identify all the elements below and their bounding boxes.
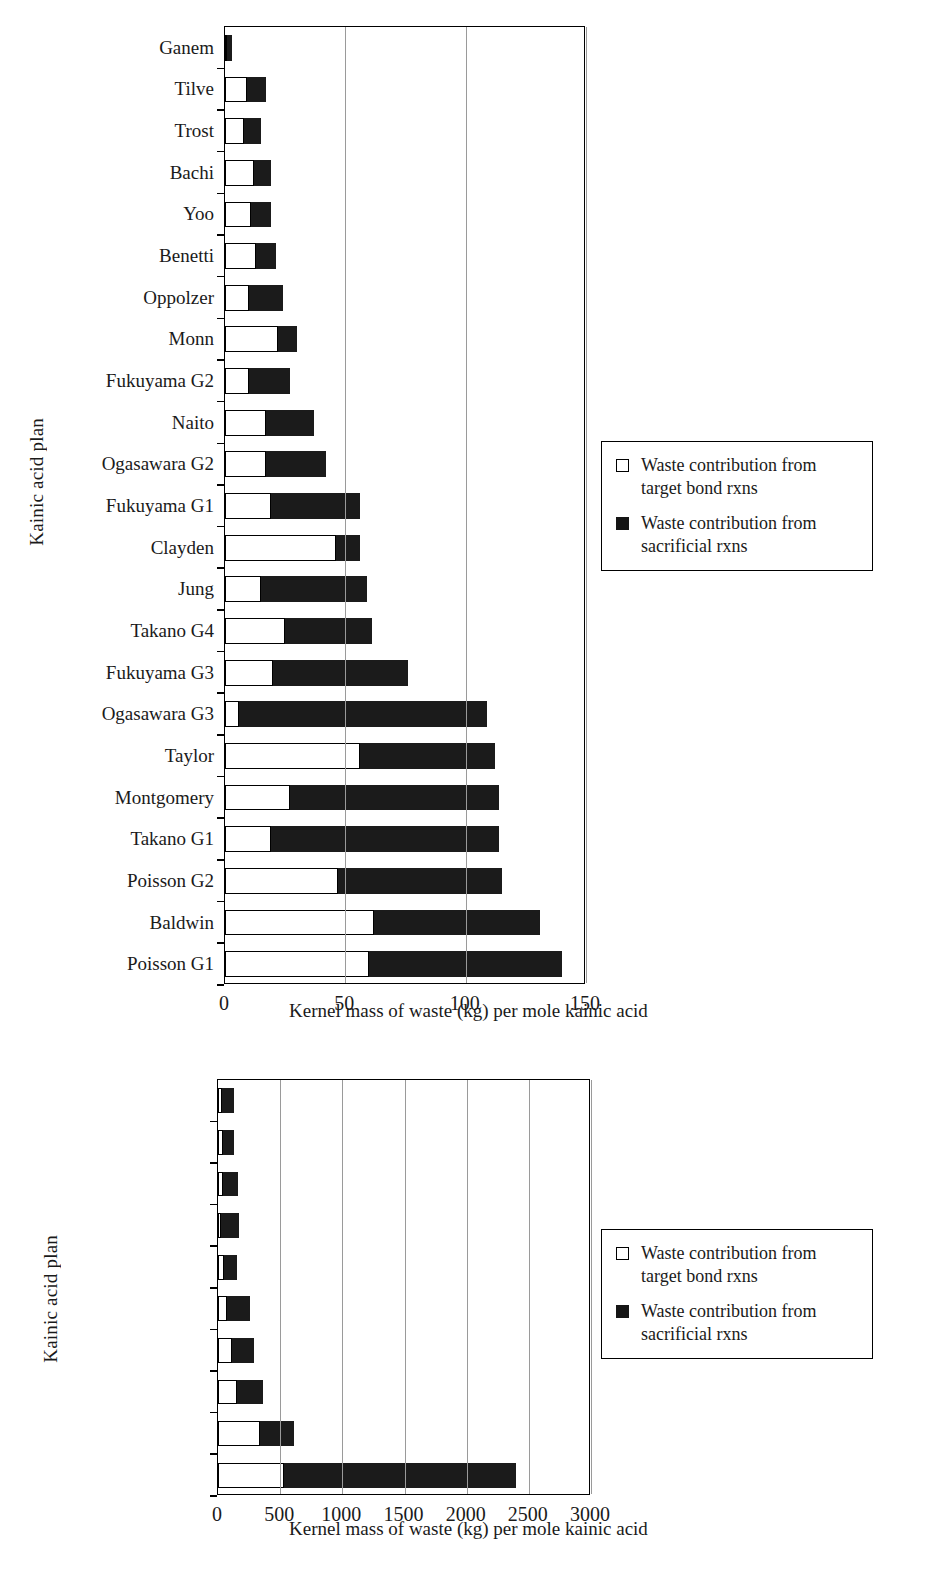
gridline <box>342 1080 343 1494</box>
bar-segment-target-bond <box>225 368 249 394</box>
chart-bottom: Kainic acid plan HanessianKnightLautensA… <box>0 1055 937 1590</box>
y-axis-tick <box>217 734 224 736</box>
bar-row <box>225 410 584 436</box>
bar-segment-sacrificial <box>285 618 372 644</box>
bar-segment-sacrificial <box>223 1130 234 1155</box>
bar-segment-target-bond <box>225 326 278 352</box>
bar-segment-sacrificial <box>232 1338 254 1363</box>
y-axis-tick <box>217 859 224 861</box>
legend-item-sacrificial: Waste contribution from sacrificial rxns <box>616 512 860 558</box>
category-label: Fukuyama G1 <box>106 496 214 515</box>
chart-top: Kainic acid plan GanemTilveTrostBachiYoo… <box>0 0 937 1050</box>
bar-segment-target-bond <box>225 951 369 977</box>
category-label: Jung <box>178 579 214 598</box>
x-axis-title-top: Kernel mass of waste (kg) per mole kaini… <box>0 1000 937 1022</box>
bar-segment-sacrificial <box>260 1421 294 1446</box>
y-axis-tick <box>217 193 224 195</box>
gridline <box>586 27 587 983</box>
bar-segment-sacrificial <box>338 868 502 894</box>
category-label: Trost <box>175 121 214 140</box>
gridline <box>529 1080 530 1494</box>
bar-row <box>218 1338 589 1363</box>
bar-row <box>218 1213 589 1238</box>
y-axis-tick <box>210 1121 217 1123</box>
legend-item-target-bond: Waste contribution from target bond rxns <box>616 1242 860 1288</box>
bar-segment-sacrificial <box>278 326 297 352</box>
category-label: Takano G1 <box>130 829 214 848</box>
bar-row <box>218 1172 589 1197</box>
bar-segment-sacrificial <box>249 368 290 394</box>
bar-segment-sacrificial <box>284 1463 517 1488</box>
category-label: Naito <box>172 413 214 432</box>
category-label: Ogasawara G3 <box>102 704 214 723</box>
bar-segment-target-bond <box>225 910 374 936</box>
y-axis-tick <box>210 1495 217 1497</box>
bar-row <box>225 160 584 186</box>
y-axis-tick <box>210 1453 217 1455</box>
category-label: Oppolzer <box>143 288 214 307</box>
bar-segment-target-bond <box>225 410 266 436</box>
y-axis-tick <box>217 692 224 694</box>
bar-segment-target-bond <box>218 1421 260 1446</box>
y-axis-tick <box>217 567 224 569</box>
category-label: Taylor <box>165 746 214 765</box>
legend-label-sacrificial: Waste contribution from sacrificial rxns <box>641 512 860 558</box>
y-axis-tick <box>217 68 224 70</box>
y-axis-tick <box>217 609 224 611</box>
y-axis-tick <box>217 234 224 236</box>
bar-row <box>225 785 584 811</box>
category-label: Monn <box>169 329 214 348</box>
bar-segment-sacrificial <box>374 910 540 936</box>
bar-segment-sacrificial <box>266 451 326 477</box>
bar-segment-sacrificial <box>290 785 499 811</box>
y-axis-tick <box>217 776 224 778</box>
bar-row <box>225 368 584 394</box>
bar-segment-target-bond <box>218 1380 237 1405</box>
category-label: Fukuyama G2 <box>106 371 214 390</box>
bar-segment-sacrificial <box>224 1255 238 1280</box>
y-axis-tick <box>210 1245 217 1247</box>
y-axis-label-top: Kainic acid plan <box>26 418 48 546</box>
bar-row <box>225 202 584 228</box>
bar-row <box>225 243 584 269</box>
gridline <box>280 1080 281 1494</box>
bar-segment-sacrificial <box>261 576 367 602</box>
category-label: Montgomery <box>115 788 214 807</box>
gridline <box>467 1080 468 1494</box>
bar-segment-sacrificial <box>237 1380 264 1405</box>
y-axis-tick <box>217 151 224 153</box>
bar-segment-sacrificial <box>227 1296 250 1321</box>
y-axis-tick <box>217 318 224 320</box>
bar-row <box>218 1380 589 1405</box>
legend-label-target-bond: Waste contribution from target bond rxns <box>641 1242 860 1288</box>
bar-row <box>225 701 584 727</box>
bar-row <box>225 576 584 602</box>
legend-swatch-filled-icon <box>616 1305 629 1318</box>
bar-segment-target-bond <box>225 202 251 228</box>
bar-segment-sacrificial <box>273 660 408 686</box>
gridline <box>466 27 467 983</box>
bar-row <box>218 1255 589 1280</box>
y-axis-tick <box>210 1162 217 1164</box>
bar-segment-sacrificial <box>247 77 266 103</box>
y-axis-tick <box>217 276 224 278</box>
bar-segment-sacrificial <box>239 701 487 727</box>
bar-row <box>218 1088 589 1113</box>
y-axis-tick <box>217 443 224 445</box>
bar-segment-target-bond <box>225 160 254 186</box>
y-axis-tick <box>217 817 224 819</box>
y-axis-tick <box>217 942 224 944</box>
y-axis-tick <box>217 901 224 903</box>
gridline <box>345 27 346 983</box>
bar-segment-target-bond <box>225 743 360 769</box>
bar-segment-sacrificial <box>222 1088 234 1113</box>
category-label: Fukuyama G3 <box>106 663 214 682</box>
bar-segment-sacrificial <box>271 493 360 519</box>
bar-segment-sacrificial <box>223 1172 238 1197</box>
legend-bottom: Waste contribution from target bond rxns… <box>601 1229 873 1359</box>
legend-swatch-filled-icon <box>616 517 629 530</box>
bar-row <box>218 1296 589 1321</box>
bar-segment-target-bond <box>225 618 285 644</box>
bar-segment-sacrificial <box>227 35 232 61</box>
bar-segment-target-bond <box>218 1338 232 1363</box>
